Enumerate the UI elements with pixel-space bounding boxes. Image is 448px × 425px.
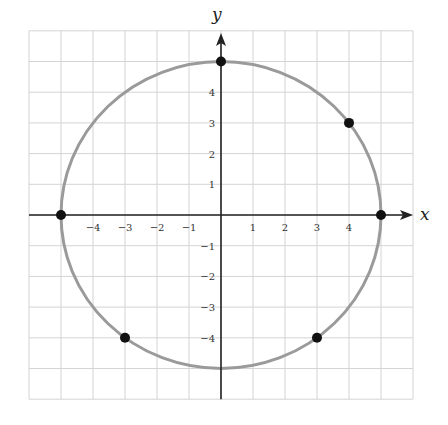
x-axis-label: x xyxy=(420,204,430,224)
y-tick-label: −3 xyxy=(200,302,215,313)
data-point xyxy=(344,118,354,128)
x-tick-label: 2 xyxy=(282,222,288,233)
y-tick-label: −4 xyxy=(200,333,215,344)
x-tick-label: −3 xyxy=(118,222,133,233)
axes xyxy=(29,33,413,399)
y-tick-label: 1 xyxy=(209,179,215,190)
y-tick-label: 4 xyxy=(209,87,215,98)
x-tick-label: 4 xyxy=(346,222,352,233)
data-point xyxy=(376,210,386,220)
y-tick-label: 3 xyxy=(209,118,215,129)
x-tick-label: −4 xyxy=(86,222,101,233)
y-tick-label: −1 xyxy=(200,241,215,252)
data-point xyxy=(120,333,130,343)
x-tick-label: −1 xyxy=(182,222,197,233)
y-axis-label: y xyxy=(211,4,222,24)
x-tick-label: 1 xyxy=(250,222,256,233)
circle-plot: −4−3−2−11234−4−3−2−11234 x y xyxy=(0,0,448,425)
data-point xyxy=(56,210,66,220)
x-tick-label: −2 xyxy=(150,222,165,233)
data-point xyxy=(312,333,322,343)
x-tick-label: 3 xyxy=(314,222,320,233)
y-tick-label: 2 xyxy=(209,149,215,160)
y-tick-label: −2 xyxy=(200,271,215,282)
data-point xyxy=(216,57,226,67)
